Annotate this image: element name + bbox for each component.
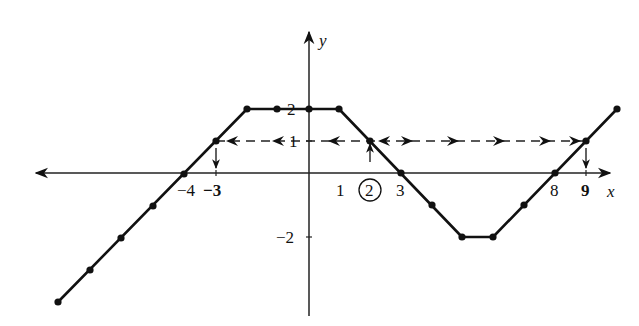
point (397, 169, 404, 176)
vertical-arrows (216, 144, 586, 168)
x-tick-label-minus-3: −3 (203, 181, 221, 200)
axes (36, 32, 610, 316)
y-tick-label-1: 1 (289, 132, 298, 151)
point (551, 169, 558, 176)
data-points (54, 105, 620, 305)
arrow-right-icon (569, 136, 581, 146)
y-tick-label-2: 2 (287, 100, 296, 119)
point (180, 170, 187, 177)
x-tick-label-1: 1 (336, 181, 345, 200)
arrow-right-icon (539, 136, 551, 146)
point (613, 105, 620, 112)
x-tick-label-2: 2 (365, 181, 374, 200)
function-graph: y x 2 1 −2 −4 −3 1 2 3 8 9 (0, 0, 639, 326)
x-tick-label-9: 9 (581, 181, 590, 200)
point (54, 298, 61, 305)
point (86, 266, 93, 273)
point (243, 105, 250, 112)
point (366, 137, 373, 144)
point (149, 202, 156, 209)
point (582, 137, 589, 144)
x-tick-label-8: 8 (550, 181, 559, 200)
point (428, 201, 435, 208)
point (489, 233, 496, 240)
point (273, 105, 280, 112)
y-axis-label: y (317, 31, 327, 50)
point (335, 105, 342, 112)
point (212, 137, 219, 144)
x-tick-label-minus-4: −4 (177, 181, 196, 200)
y-tick-label-minus-2: −2 (276, 228, 294, 247)
point (458, 233, 465, 240)
point (117, 234, 124, 241)
point (305, 105, 312, 112)
x-tick-label-3: 3 (396, 181, 405, 200)
point (520, 201, 527, 208)
dashed-level-line (216, 136, 586, 146)
x-axis-label: x (606, 182, 615, 201)
